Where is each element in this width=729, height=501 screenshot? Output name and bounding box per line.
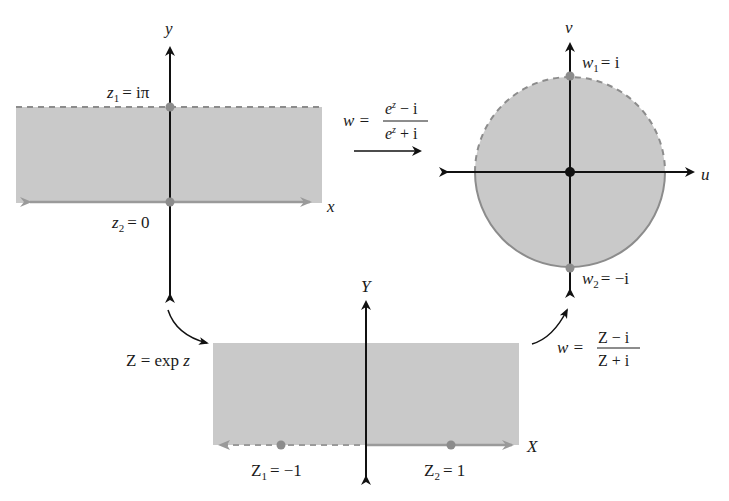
w-plane: v u w1= i w2= −i bbox=[447, 18, 710, 290]
label-w2: w2= −i bbox=[582, 269, 629, 290]
label-z1: z1= iπ bbox=[106, 83, 150, 104]
Z-plane: Y X Z1= −1 Z2= 1 bbox=[213, 277, 538, 482]
mapping-exp: Z = exp z bbox=[126, 310, 207, 370]
mapping-direct-lhs: w = bbox=[343, 111, 370, 130]
Y-axis-label: Y bbox=[361, 277, 372, 296]
mapping-direct-numerator: ez − i bbox=[385, 99, 418, 117]
point-z1 bbox=[166, 103, 175, 112]
v-axis-label: v bbox=[565, 18, 573, 37]
mapping-mobius-lhs: w = bbox=[557, 338, 584, 357]
y-axis-label: y bbox=[163, 19, 173, 38]
curved-arrow-exp bbox=[168, 310, 207, 343]
mapping-exp-label: Z = exp z bbox=[126, 351, 190, 370]
point-Z1 bbox=[277, 441, 286, 450]
point-Z2 bbox=[447, 441, 456, 450]
mapping-mobius-denominator: Z + i bbox=[598, 352, 630, 369]
point-w2 bbox=[566, 264, 575, 273]
conformal-mapping-diagram: y x z1= iπ z2= 0 w = ez − i ez + i v u bbox=[0, 0, 729, 501]
label-z2: z2= 0 bbox=[111, 213, 149, 234]
diagram-canvas: y x z1= iπ z2= 0 w = ez − i ez + i v u bbox=[0, 0, 729, 501]
label-Z1: Z1= −1 bbox=[251, 461, 302, 482]
label-Z2: Z2= 1 bbox=[424, 461, 465, 482]
label-w1: w1= i bbox=[582, 53, 620, 74]
mapping-mobius: w = Z − i Z + i bbox=[532, 310, 640, 369]
mapping-direct-formula: w = ez − i ez + i bbox=[343, 99, 428, 151]
point-w1 bbox=[566, 72, 575, 81]
mapping-direct-denominator: ez + i bbox=[385, 124, 418, 142]
point-origin bbox=[565, 167, 575, 177]
u-axis-label: u bbox=[701, 165, 710, 184]
mapping-mobius-numerator: Z − i bbox=[598, 329, 630, 346]
z-plane: y x z1= iπ z2= 0 bbox=[16, 19, 335, 295]
X-axis-label: X bbox=[526, 437, 538, 456]
x-axis-label: x bbox=[326, 197, 335, 216]
point-z2 bbox=[166, 198, 175, 207]
